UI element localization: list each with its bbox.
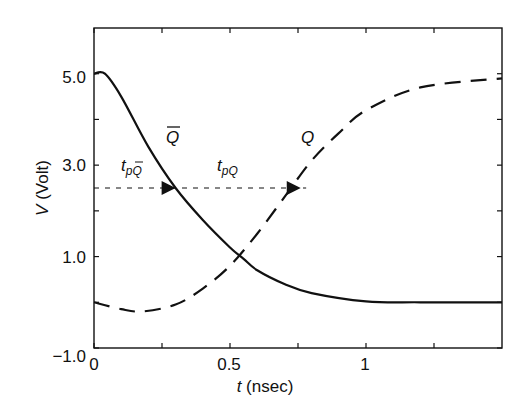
q-curve — [94, 78, 502, 311]
x-axis-title: t (nsec) — [237, 377, 294, 396]
q-label: Q — [301, 128, 314, 147]
y-tick-label-neg1: −1.0 — [52, 347, 86, 366]
arrow-icon — [287, 181, 301, 195]
x-tick-label-1: 1 — [360, 355, 369, 374]
svg-text:Q: Q — [166, 128, 179, 147]
data-series — [94, 72, 502, 312]
y-tick-label-1: 1.0 — [62, 248, 86, 267]
y-tick-label-3: 3.0 — [62, 156, 86, 175]
chart: 5.0 3.0 1.0 −1.0 0 0.5 1 t (nsec) V (Vol… — [0, 0, 528, 416]
reference-line — [94, 181, 306, 195]
arrow-icon — [162, 181, 176, 195]
y-axis-title: V (Volt) — [33, 160, 52, 216]
y-tick-label-5: 5.0 — [62, 68, 86, 87]
svg-text:tpQ: tpQ — [121, 156, 142, 178]
tpq-label: tpQ — [217, 156, 238, 178]
qbar-label: Q — [166, 127, 180, 147]
x-tick-label-0: 0 — [89, 355, 98, 374]
tpqbar-label: tpQ — [121, 156, 143, 178]
x-tick-label-0.5: 0.5 — [217, 355, 241, 374]
